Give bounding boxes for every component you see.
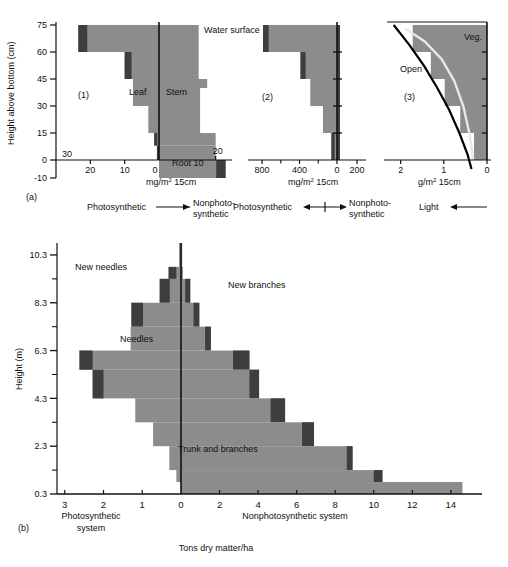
panel-b-x-tick-label-left: 2 — [101, 499, 106, 510]
panel-b-band-left-cap — [169, 267, 177, 279]
a1-arrow-left-label: Photosynthetic — [87, 202, 147, 212]
panel-b-y-tick-label: 10.3 — [29, 250, 47, 260]
a1-arrow-right-label-1: Nonphoto- — [193, 198, 235, 208]
panel-a2-x-tick-label: 800 — [255, 165, 270, 175]
panel-a1-label-root: Root 10 — [172, 158, 204, 168]
panel-a1-band-left — [148, 106, 159, 133]
panel-a1-y-tick-label: 30 — [37, 101, 47, 111]
panel-b-x-tick-label-left: 3 — [62, 499, 67, 510]
panel-a1-band-right — [159, 25, 199, 52]
panel-b-band-right-cap — [374, 470, 383, 482]
panel-a1-label-stem: Stem — [166, 87, 187, 97]
panel-a1-band-left — [78, 25, 159, 52]
panel-a2-band-left-cap — [263, 25, 269, 52]
panel-a1-xlabel: mg/m2 15cm — [146, 177, 196, 187]
panel-a3-x-tick-label: 0 — [484, 165, 489, 175]
panel-a1-x-tick-label-right: 20 — [213, 146, 223, 156]
panel-b-right-axis-label: Nonphotosynthetic system — [242, 511, 348, 521]
panel-a1-y-tick-label: -10 — [34, 173, 47, 183]
panel-a2: 8004000200 (2) mg/m2 15cm — [248, 22, 366, 187]
panel-a3-x-tick-label: 1 — [441, 165, 446, 175]
panel-a1-x-tick-label-zero: 0 — [152, 165, 157, 175]
panel-a3-step — [445, 79, 487, 106]
panel-b-y-tick-label: 0.3 — [34, 489, 47, 499]
panel-a1: 75604530150-10201003020 (1) Leaf Stem Ro… — [6, 20, 260, 202]
panel-b-x-tick-label-right: 12 — [407, 499, 418, 510]
panel-a: 75604530150-10201003020 (1) Leaf Stem Ro… — [6, 20, 491, 219]
panel-a1-water-surface-label: Water surface — [204, 25, 260, 35]
panel-a2-x-tick-label-right: 200 — [349, 165, 364, 175]
panel-a1-bars — [78, 25, 225, 178]
panel-b-y-tick-label: 6.3 — [34, 346, 47, 356]
panel-b-band-right-cap — [185, 279, 190, 303]
panel-b: 0.32.34.36.38.310.332102468101214 Height… — [14, 243, 482, 553]
panel-a3-label-veg: Veg. — [464, 32, 482, 42]
panel-b-band-left-cap — [79, 351, 92, 370]
panel-a1-y-tick-label: 0 — [42, 155, 47, 165]
panel-a1-ylabel: Height above bottom (cm) — [6, 41, 16, 145]
panel-a3-step — [474, 133, 487, 160]
panel-b-band-right-cap — [233, 351, 249, 370]
a3-arrow-label: Light — [419, 202, 439, 212]
panel-b-band-left — [153, 422, 181, 446]
panel-a2-xlabel: mg/m2 15cm — [288, 177, 338, 187]
panel-a2-bars — [263, 25, 340, 160]
panel-b-band-right-cap — [302, 422, 314, 446]
panel-a1-band-left-cap — [125, 52, 132, 79]
a2-arrow-head-right — [340, 204, 347, 210]
panel-b-x-tick-label-right: 0 — [178, 499, 183, 510]
panel-b-x-tick-label-right: 4 — [255, 499, 260, 510]
figure-root: 75604530150-10201003020 (1) Leaf Stem Ro… — [0, 0, 508, 567]
panel-a3-tag: (3) — [404, 92, 415, 102]
panel-a1-y-tick-label: 45 — [37, 74, 47, 84]
panel-b-band-left — [93, 370, 181, 399]
panel-a3-xlabel: g/m2 15cm — [418, 177, 461, 187]
panel-b-x-tick-label-right: 2 — [217, 499, 222, 510]
panel-a2-band-left-cap — [331, 133, 334, 160]
a2-arrow-left-label: Photosynthetic — [233, 202, 293, 212]
panel-a1-x-tick-label-30: 30 — [62, 149, 72, 159]
panel-b-band-right-cap — [205, 327, 211, 351]
panel-b-band-right — [181, 422, 314, 446]
a2-arrow-right-label-2: synthetic — [349, 209, 385, 219]
panel-a1-y-tick-label: 60 — [37, 47, 47, 57]
panel-b-band-right-cap — [271, 398, 285, 422]
panel-b-label: (b) — [18, 523, 29, 533]
panel-b-y-tick-label: 2.3 — [34, 441, 47, 451]
panel-a1-x-tick-label: 20 — [85, 165, 95, 175]
panel-b-band-left-cap — [160, 279, 170, 303]
panel-a1-y-tick-label: 75 — [37, 20, 47, 30]
panel-b-band-left — [135, 398, 181, 422]
panel-b-band-right — [181, 370, 259, 399]
panel-a2-band-left — [323, 106, 337, 133]
a2-arrow-head-left — [303, 204, 310, 210]
panel-b-band-left-cap — [93, 370, 104, 399]
panel-b-x-tick-label-left: 1 — [140, 499, 145, 510]
a3-arrow-head — [450, 204, 457, 210]
panel-a2-tag: (2) — [262, 92, 273, 102]
panel-a2-x-tick-label: 400 — [292, 165, 307, 175]
panel-a1-tag: (1) — [78, 90, 89, 100]
panel-b-x-tick-label-right: 14 — [446, 499, 457, 510]
panel-b-band-left-cap — [131, 303, 143, 327]
panel-a1-label-leaf: Leaf — [129, 87, 147, 97]
a2-arrow-right-label-1: Nonphoto- — [349, 198, 391, 208]
panel-b-band-right-cap — [347, 446, 353, 470]
panel-a2-x-tick-label: 0 — [334, 165, 339, 175]
panel-a-arrow-annotations: Photosynthetic Nonphoto- synthetic Photo… — [87, 198, 487, 219]
panel-a-label: (a) — [26, 192, 37, 202]
panel-a2-band-left-cap — [300, 52, 305, 79]
panel-b-band-right — [181, 470, 382, 482]
panel-a3-x-tick-label: 2 — [398, 165, 403, 175]
panel-a1-band-right-cap — [216, 160, 225, 178]
panel-a1-band-right — [159, 106, 200, 133]
panel-b-x-tick-label-right: 8 — [333, 499, 338, 510]
panel-b-band-right — [181, 398, 285, 422]
a1-arrow-head — [183, 204, 190, 210]
panel-b-band-left — [79, 351, 181, 370]
panel-a1-band-right — [159, 133, 216, 146]
panel-b-ylabel: Height (m) — [14, 348, 24, 390]
panel-b-band-right-cap — [194, 303, 200, 327]
panel-b-xlabel: Tons dry matter/ha — [179, 543, 254, 553]
panel-a3: 210 (3) Open Veg. g/m2 15cm — [384, 22, 491, 187]
